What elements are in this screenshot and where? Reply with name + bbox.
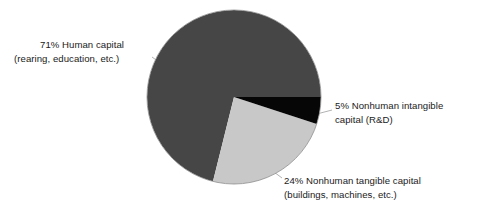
pie-label-nonhuman-intangible-capital-line2: capital (R&D) — [335, 113, 443, 127]
pie-label-nonhuman-tangible-capital: 24% Nonhuman tangible capital (buildings… — [284, 174, 421, 201]
pie-label-human-capital-line1: 71% Human capital — [14, 38, 124, 52]
pie-label-nonhuman-tangible-capital-line2: (buildings, machines, etc.) — [284, 188, 421, 202]
pie-slices-group — [147, 10, 321, 184]
pie-chart-figure: 71% Human capital (rearing, education, e… — [0, 0, 483, 212]
pie-label-human-capital: 71% Human capital (rearing, education, e… — [14, 38, 124, 65]
pie-label-nonhuman-tangible-capital-line1: 24% Nonhuman tangible capital — [284, 174, 421, 188]
pie-label-human-capital-line2: (rearing, education, etc.) — [14, 52, 124, 66]
pie-label-nonhuman-intangible-capital-line1: 5% Nonhuman intangible — [335, 99, 443, 113]
pie-label-nonhuman-intangible-capital: 5% Nonhuman intangible capital (R&D) — [335, 99, 443, 126]
